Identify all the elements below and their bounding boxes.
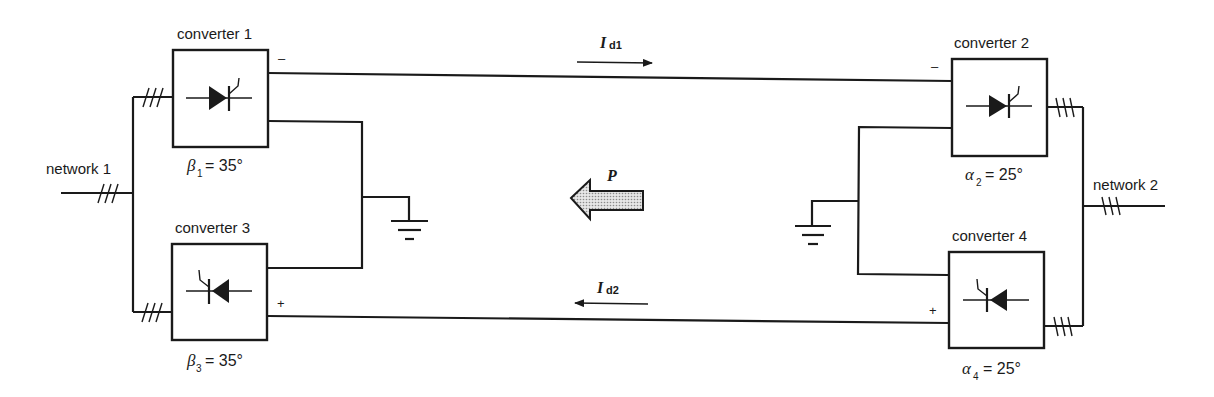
ground-icon (795, 226, 831, 244)
three-phase-mark-c3 (142, 303, 162, 322)
left-neutral (268, 121, 409, 268)
right-neutral (812, 127, 952, 275)
hvdc-diagram: network 1 network 2 (0, 0, 1214, 397)
converter-1[interactable] (173, 50, 268, 147)
network1-label: network 1 (46, 160, 111, 177)
converter-3-label: converter 3 (175, 219, 250, 236)
svg-text:4: 4 (973, 371, 979, 382)
polarity-c1: – (278, 51, 286, 66)
svg-text:β: β (186, 156, 196, 175)
converter-3[interactable] (172, 244, 267, 340)
svg-text:β: β (186, 351, 196, 370)
three-phase-mark-c1 (143, 88, 163, 107)
converter-4-label: converter 4 (952, 227, 1027, 244)
svg-text:α: α (962, 359, 972, 378)
angle-c4: α 4 = 25° (962, 359, 1021, 382)
three-phase-mark-c4 (1054, 317, 1072, 336)
angle-c1: β 1 = 35° (186, 156, 243, 179)
converter-2-label: converter 2 (954, 34, 1029, 51)
power-symbol: P (606, 167, 617, 184)
three-phase-mark-network1 (98, 184, 118, 203)
converter-2[interactable] (952, 59, 1047, 156)
polarity-c3: + (277, 296, 285, 311)
converter-1-label: converter 1 (177, 25, 252, 42)
svg-text:3: 3 (196, 363, 202, 374)
svg-text:= 35°: = 35° (205, 352, 243, 369)
three-phase-mark-network2 (1102, 197, 1120, 215)
network2-bus (1045, 107, 1165, 326)
svg-text:= 25°: = 25° (985, 166, 1023, 183)
polarity-c2: – (931, 59, 939, 74)
arrow-left-icon (575, 303, 648, 304)
ground-icon (391, 221, 428, 239)
svg-text:d2: d2 (606, 284, 619, 296)
svg-text:I: I (596, 279, 604, 296)
current-id2: I d2 (575, 279, 648, 304)
dc-line-negative (268, 73, 952, 81)
svg-text:= 35°: = 35° (205, 157, 243, 174)
power-flow-arrow: P (571, 167, 643, 219)
three-phase-mark-c2 (1056, 98, 1074, 117)
dc-line-positive (268, 316, 949, 323)
svg-text:I: I (599, 34, 607, 51)
network1-bus (61, 97, 173, 312)
svg-text:= 25°: = 25° (983, 360, 1021, 377)
svg-text:2: 2 (976, 177, 982, 188)
svg-text:α: α (965, 165, 975, 184)
angle-c3: β 3 = 35° (186, 351, 243, 374)
network2-label: network 2 (1093, 176, 1158, 193)
svg-text:1: 1 (197, 168, 203, 179)
converter-4[interactable] (949, 252, 1044, 348)
angle-c2: α 2 = 25° (965, 165, 1023, 188)
current-id1: I d1 (577, 34, 652, 63)
svg-text:d1: d1 (609, 39, 622, 51)
arrow-right-icon (577, 62, 652, 63)
polarity-c4: + (929, 303, 937, 318)
